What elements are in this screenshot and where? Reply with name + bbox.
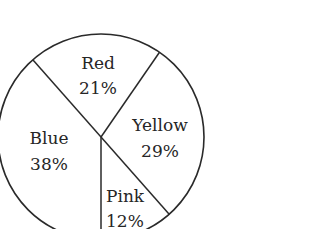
slice-yellow-name: Yellow bbox=[131, 115, 188, 135]
pie-chart: Red 21% Yellow 29% Blue 38% Pink 12% bbox=[0, 0, 318, 229]
slice-red-percent: 21% bbox=[79, 78, 117, 98]
slice-pink-percent: 12% bbox=[106, 211, 144, 229]
slice-yellow-percent: 29% bbox=[141, 141, 179, 161]
slice-blue-name: Blue bbox=[30, 128, 69, 148]
slice-red-name: Red bbox=[81, 53, 115, 73]
slice-blue-percent: 38% bbox=[30, 154, 68, 174]
slice-pink-name: Pink bbox=[106, 186, 145, 206]
